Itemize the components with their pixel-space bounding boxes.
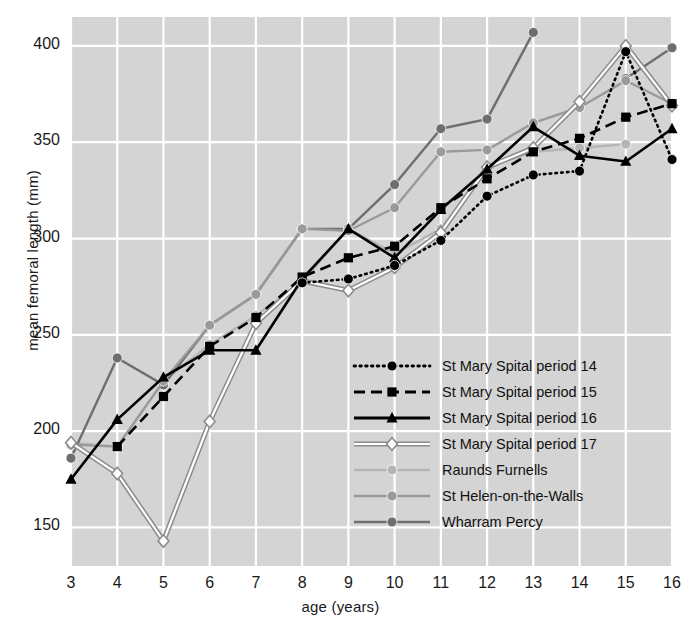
- x-tick-9: 9: [333, 574, 363, 592]
- data-point: [344, 253, 353, 262]
- legend-item-3[interactable]: St Mary Spital period 17: [352, 431, 642, 457]
- data-point: [667, 155, 677, 165]
- legend-symbol-circle-icon: [352, 485, 432, 507]
- data-point: [436, 124, 446, 134]
- x-tick-16: 16: [657, 574, 681, 592]
- data-point: [482, 174, 491, 183]
- y-tick-200: 200: [14, 420, 60, 438]
- legend-label: St Mary Spital period 14: [432, 358, 597, 374]
- data-point: [621, 76, 631, 86]
- x-tick-6: 6: [195, 574, 225, 592]
- legend-item-2[interactable]: St Mary Spital period 16: [352, 405, 642, 431]
- data-point: [390, 242, 399, 251]
- data-point: [113, 442, 122, 451]
- legend-label: Wharram Percy: [432, 514, 543, 530]
- x-tick-10: 10: [380, 574, 410, 592]
- legend: St Mary Spital period 14St Mary Spital p…: [352, 353, 642, 538]
- legend-label: St Helen-on-the-Walls: [432, 488, 583, 504]
- x-tick-7: 7: [241, 574, 271, 592]
- data-point: [621, 113, 630, 122]
- data-point: [621, 47, 631, 57]
- y-tick-400: 400: [14, 35, 60, 53]
- data-point: [390, 203, 400, 213]
- data-point: [343, 274, 353, 284]
- data-point: [390, 260, 400, 270]
- legend-item-4[interactable]: Raunds Furnells: [352, 457, 642, 483]
- data-point: [436, 147, 446, 157]
- data-point: [390, 180, 400, 190]
- data-point: [621, 139, 631, 149]
- data-point: [436, 235, 446, 245]
- legend-label: Raunds Furnells: [432, 462, 548, 478]
- data-point: [667, 43, 677, 53]
- y-axis-label: mean femoral length (mm): [24, 141, 41, 381]
- legend-item-6[interactable]: Wharram Percy: [352, 509, 642, 535]
- legend-item-5[interactable]: St Helen-on-the-Walls: [352, 483, 642, 509]
- data-point: [387, 517, 397, 527]
- x-tick-11: 11: [426, 574, 456, 592]
- data-point: [297, 278, 307, 288]
- femoral-length-chart: mean femoral length (mm) age (years) 150…: [0, 0, 681, 631]
- x-tick-13: 13: [518, 574, 548, 592]
- x-tick-5: 5: [148, 574, 178, 592]
- legend-symbol-diamond-open-icon: [352, 433, 432, 455]
- x-tick-4: 4: [102, 574, 132, 592]
- data-point: [387, 438, 398, 450]
- data-point: [387, 491, 397, 501]
- x-axis-label: age (years): [0, 598, 681, 615]
- legend-label: St Mary Spital period 15: [432, 384, 597, 400]
- data-point: [575, 166, 585, 176]
- y-tick-250: 250: [14, 324, 60, 342]
- data-point: [482, 191, 492, 201]
- x-tick-3: 3: [56, 574, 86, 592]
- data-point: [528, 27, 538, 37]
- data-point: [251, 289, 261, 299]
- data-point: [575, 134, 584, 143]
- y-tick-350: 350: [14, 131, 60, 149]
- legend-symbol-square-icon: [352, 381, 432, 403]
- x-tick-14: 14: [565, 574, 595, 592]
- data-point: [66, 453, 76, 463]
- data-point: [482, 114, 492, 124]
- data-point: [387, 361, 397, 371]
- x-tick-8: 8: [287, 574, 317, 592]
- data-point: [112, 353, 122, 363]
- legend-label: St Mary Spital period 16: [432, 410, 597, 426]
- x-tick-12: 12: [472, 574, 502, 592]
- legend-symbol-circle-icon: [352, 355, 432, 377]
- y-tick-150: 150: [14, 516, 60, 534]
- legend-label: St Mary Spital period 17: [432, 436, 597, 452]
- x-tick-15: 15: [611, 574, 641, 592]
- data-point: [529, 147, 538, 156]
- data-point: [482, 145, 492, 155]
- legend-item-0[interactable]: St Mary Spital period 14: [352, 353, 642, 379]
- data-point: [251, 313, 260, 322]
- legend-symbol-triangle-icon: [352, 407, 432, 429]
- data-point: [528, 170, 538, 180]
- data-point: [667, 99, 676, 108]
- data-point: [205, 320, 215, 330]
- legend-item-1[interactable]: St Mary Spital period 15: [352, 379, 642, 405]
- legend-symbol-circle-icon: [352, 459, 432, 481]
- legend-symbol-circle-icon: [352, 511, 432, 533]
- data-point: [159, 392, 168, 401]
- data-point: [387, 465, 397, 475]
- data-point: [297, 224, 307, 234]
- y-tick-300: 300: [14, 228, 60, 246]
- data-point: [387, 387, 396, 396]
